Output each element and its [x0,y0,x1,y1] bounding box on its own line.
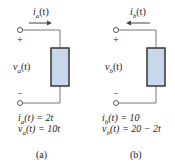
plus-sign-b: + [113,35,119,45]
terminal-bottom-b [114,101,119,106]
element-box-a [51,48,69,86]
caption-b: (b) [130,150,142,160]
equation-voltage-a: va(t) = 10t [18,123,60,139]
top-wire-b [118,30,156,48]
minus-sign-b: − [113,89,119,99]
current-arrow-right-icon [29,21,52,26]
element-box-b [147,48,165,86]
terminal-top-b [114,28,119,33]
plus-sign-a: + [17,35,23,45]
terminal-bottom-a [18,101,23,106]
voltage-label-b: vb(t) [105,62,122,75]
caption-a: (a) [36,150,47,160]
top-wire-a [22,30,60,48]
terminal-top-a [18,28,23,33]
bottom-wire-a [22,86,60,103]
current-label-b: ib(t) [130,7,146,20]
current-arrow-left-icon [126,21,150,26]
equation-voltage-b: vb(t) = 20 − 2t [102,123,161,139]
voltage-label-a: va(t) [13,62,30,75]
minus-sign-a: − [17,89,23,99]
circuit-diagram [0,0,175,164]
bottom-wire-b [118,86,156,103]
current-label-a: ia(t) [33,7,49,20]
